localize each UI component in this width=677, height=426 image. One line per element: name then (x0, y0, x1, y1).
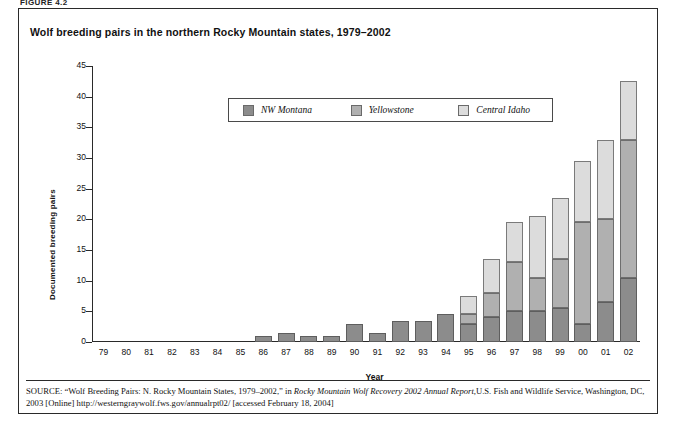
x-axis-tick-label: 94 (434, 347, 458, 357)
bar-segment-nw-montana (597, 302, 614, 342)
x-axis-tick-label: 92 (388, 347, 412, 357)
bar-segment-nw-montana (392, 321, 409, 342)
bar-group-00[interactable] (574, 161, 591, 342)
bar-segment-nw-montana (574, 324, 591, 342)
y-axis-tick-label: 25 (64, 183, 86, 193)
y-axis-tick-label: 20 (64, 213, 86, 223)
x-axis-tick-label: 93 (411, 347, 435, 357)
x-axis-tick-label: 95 (457, 347, 481, 357)
y-axis-tick-labels: 051015202530354045 (62, 66, 86, 342)
source-label: SOURCE: (26, 386, 62, 396)
y-axis-tick-label: 0 (64, 336, 86, 346)
bar-segment-nw-montana (300, 336, 317, 342)
bar-segment-yellowstone (460, 314, 477, 323)
bar-segment-nw-montana (415, 321, 432, 342)
bar-group-99[interactable] (552, 198, 569, 342)
y-axis-tick-label: 35 (64, 121, 86, 131)
bar-segment-nw-montana (506, 311, 523, 342)
legend-swatch-icon (458, 105, 469, 116)
y-axis-tick (86, 342, 92, 343)
x-axis-title: Year (0, 372, 677, 382)
bar-segment-yellowstone (620, 140, 637, 278)
bar-group-93[interactable] (415, 321, 432, 342)
source-note: SOURCE: “Wolf Breeding Pairs: N. Rocky M… (26, 386, 654, 409)
y-axis-tick-label: 5 (64, 305, 86, 315)
bar-group-98[interactable] (529, 216, 546, 342)
bar-segment-yellowstone (529, 278, 546, 312)
bar-segment-central-idaho (574, 161, 591, 222)
x-axis-tick-label: 86 (251, 347, 275, 357)
bar-group-96[interactable] (483, 259, 500, 342)
bar-group-87[interactable] (278, 333, 295, 342)
y-axis-title: Documented breeding pairs (48, 189, 57, 300)
bar-segment-nw-montana (483, 317, 500, 342)
bar-group-91[interactable] (369, 333, 386, 342)
bar-segment-central-idaho (483, 259, 500, 293)
legend-item-nw-montana[interactable]: NW Montana (229, 105, 337, 116)
x-axis-tick-label: 85 (228, 347, 252, 357)
y-axis-tick-label: 15 (64, 244, 86, 254)
figure-label: FIGURE 4.2 (20, 0, 68, 7)
bar-segment-central-idaho (597, 140, 614, 220)
legend-swatch-icon (243, 105, 254, 116)
bar-group-92[interactable] (392, 321, 409, 342)
bar-segment-yellowstone (552, 259, 569, 308)
bar-group-95[interactable] (460, 296, 477, 342)
bar-segment-nw-montana (278, 333, 295, 342)
legend-item-yellowstone[interactable]: Yellowstone (337, 105, 445, 116)
x-axis-tick-label: 88 (297, 347, 321, 357)
y-axis-tick-label: 45 (64, 60, 86, 70)
x-axis-tick-label: 84 (206, 347, 230, 357)
x-axis-tick-label: 79 (91, 347, 115, 357)
x-axis-tick-label: 96 (480, 347, 504, 357)
bar-segment-nw-montana (620, 278, 637, 342)
bar-segment-nw-montana (346, 324, 363, 342)
x-axis-tick-label: 82 (160, 347, 184, 357)
bar-segment-nw-montana (437, 314, 454, 342)
bar-segment-central-idaho (552, 198, 569, 259)
bar-group-02[interactable] (620, 81, 637, 342)
x-axis-tick-label: 99 (548, 347, 572, 357)
legend-label: Central Idaho (476, 105, 530, 115)
legend-item-central-idaho[interactable]: Central Idaho (444, 105, 552, 116)
bar-segment-central-idaho (529, 216, 546, 277)
bar-segment-central-idaho (506, 222, 523, 262)
chart-title: Wolf breeding pairs in the northern Rock… (30, 26, 391, 38)
y-axis-tick-label: 30 (64, 152, 86, 162)
bar-group-97[interactable] (506, 222, 523, 342)
chart-legend: NW MontanaYellowstoneCentral Idaho (228, 98, 553, 122)
bar-segment-yellowstone (574, 222, 591, 323)
x-axis-tick-label: 91 (365, 347, 389, 357)
x-axis-tick-label: 00 (571, 347, 595, 357)
bar-segment-central-idaho (460, 296, 477, 314)
x-axis-tick-label: 01 (594, 347, 618, 357)
legend-label: Yellowstone (369, 105, 414, 115)
bar-group-90[interactable] (346, 324, 363, 342)
bar-group-86[interactable] (255, 336, 272, 342)
bar-group-88[interactable] (300, 336, 317, 342)
x-axis-tick-label: 90 (343, 347, 367, 357)
source-italic-1: Rocky Mountain Wolf Recovery 2002 Annual… (294, 386, 476, 396)
bar-segment-nw-montana (369, 333, 386, 342)
x-axis-tick-label: 81 (137, 347, 161, 357)
bar-group-94[interactable] (437, 314, 454, 342)
x-axis-tick-label: 83 (183, 347, 207, 357)
source-text-1: “Wolf Breeding Pairs: N. Rocky Mountain … (64, 386, 293, 396)
bar-segment-yellowstone (597, 219, 614, 302)
bar-group-01[interactable] (597, 140, 614, 342)
bar-group-89[interactable] (323, 336, 340, 342)
x-axis-tick-label: 97 (502, 347, 526, 357)
x-axis-tick-label: 87 (274, 347, 298, 357)
legend-swatch-icon (351, 105, 362, 116)
x-axis-tick-label: 02 (617, 347, 641, 357)
bar-segment-nw-montana (460, 324, 477, 342)
bar-segment-central-idaho (620, 81, 637, 139)
x-axis-tick-label: 80 (114, 347, 138, 357)
bar-segment-nw-montana (552, 308, 569, 342)
bar-segment-nw-montana (529, 311, 546, 342)
bar-segment-nw-montana (323, 336, 340, 342)
bar-segment-nw-montana (255, 336, 272, 342)
y-axis-tick-label: 40 (64, 91, 86, 101)
bar-segment-yellowstone (506, 262, 523, 311)
legend-label: NW Montana (261, 105, 312, 115)
